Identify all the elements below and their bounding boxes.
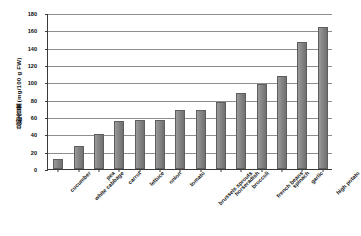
x-axis-category-label: high potato: [335, 170, 361, 196]
bar-series: [48, 14, 332, 169]
y-tick-label: 80: [13, 98, 37, 104]
y-tick-label: 180: [13, 11, 37, 17]
bar-slot: [191, 14, 211, 169]
bar[interactable]: [135, 120, 145, 169]
bar-slot: [231, 14, 251, 169]
bar[interactable]: [318, 27, 328, 169]
y-tick-label: 100: [13, 80, 37, 86]
bar[interactable]: [155, 120, 165, 169]
y-tick-label: 120: [13, 63, 37, 69]
bar[interactable]: [175, 110, 185, 169]
x-tick-label: carrot: [127, 170, 142, 185]
bar-slot: [252, 14, 272, 169]
x-tick-label: high potato: [335, 170, 361, 196]
x-axis-category-label: tomato: [189, 170, 206, 187]
y-tick-label: 40: [13, 132, 37, 138]
y-tick-label: 60: [13, 115, 37, 121]
x-axis-labels: cucumberwhite cabbagepeacarrotlettuceoni…: [47, 170, 332, 236]
bar-slot: [170, 14, 190, 169]
bar-slot: [292, 14, 312, 169]
bar-slot: [313, 14, 333, 169]
x-tick-label: tomato: [189, 170, 206, 187]
bar[interactable]: [297, 42, 307, 169]
x-tick-label: garlic: [310, 170, 325, 185]
x-axis-category-label: lettuce: [148, 170, 165, 187]
y-axis-title: 总酚含量 (mg/100 g FW): [13, 18, 24, 168]
bar[interactable]: [277, 76, 287, 169]
bar-slot: [129, 14, 149, 169]
x-axis-category-label: onion: [167, 170, 182, 185]
x-axis-category-label: carrot: [127, 170, 142, 185]
bar-slot: [68, 14, 88, 169]
bar-slot: [109, 14, 129, 169]
bar-slot: [211, 14, 231, 169]
bar-slot: [48, 14, 68, 169]
x-axis-category-label: cucumber: [69, 170, 92, 193]
bar[interactable]: [196, 110, 206, 169]
plot-area: 020406080100120140160180: [47, 14, 332, 170]
x-axis-category-label: brussels sprouts: [217, 170, 253, 206]
bar-slot: [272, 14, 292, 169]
y-tick-label: 0: [13, 167, 37, 173]
x-axis-category-label: garlic: [310, 170, 325, 185]
bar[interactable]: [94, 134, 104, 169]
bar-slot: [89, 14, 109, 169]
bar[interactable]: [257, 84, 267, 169]
chart-title: [0, 0, 339, 9]
bar[interactable]: [114, 121, 124, 169]
x-tick-label: lettuce: [148, 170, 165, 187]
x-tick-label: cucumber: [69, 170, 92, 193]
bar[interactable]: [53, 159, 63, 169]
y-tick-label: 20: [13, 150, 37, 156]
x-tick-label: brussels sprouts: [217, 170, 253, 206]
bar[interactable]: [236, 93, 246, 169]
y-tick-label: 160: [13, 28, 37, 34]
bar[interactable]: [74, 146, 84, 169]
y-tick-label: 140: [13, 46, 37, 52]
x-tick-label: onion: [167, 170, 182, 185]
bar-slot: [150, 14, 170, 169]
bar[interactable]: [216, 102, 226, 169]
